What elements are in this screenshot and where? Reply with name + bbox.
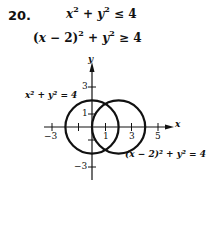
y-tick-label: 3 bbox=[82, 81, 88, 91]
x-axis-arrow-icon bbox=[165, 125, 174, 130]
x-tick-label: 3 bbox=[129, 131, 135, 141]
y-tick-label: 1 bbox=[82, 108, 88, 118]
x-tick-label: 1 bbox=[103, 131, 109, 141]
y-axis-label: y bbox=[88, 54, 93, 64]
circle-2-label: (x − 2)² + y² = 4 bbox=[125, 149, 206, 159]
x-axis-label: x bbox=[175, 119, 180, 129]
y-tick-label: −3 bbox=[74, 161, 87, 171]
circle-1-label: x² + y² = 4 bbox=[25, 90, 77, 100]
x-tick-label: 5 bbox=[155, 131, 161, 141]
x-tick-label: −3 bbox=[44, 131, 57, 141]
